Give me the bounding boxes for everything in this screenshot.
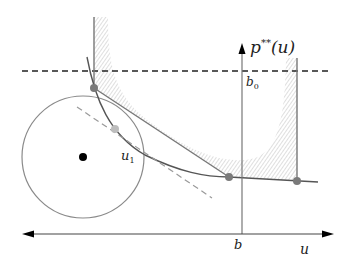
upper-left-contact-point <box>90 84 98 92</box>
u-axis-left-arrow-icon <box>22 231 34 238</box>
circle-center-dot <box>79 153 87 161</box>
lower-contact-point <box>225 173 233 181</box>
b-label: b <box>234 237 242 252</box>
u-label: u <box>300 241 309 257</box>
u1-point <box>111 125 119 133</box>
p-axis-label: p**(u) <box>250 37 295 57</box>
convex-conjugate-diagram: p**(u) b0 u1 b u <box>0 0 364 266</box>
p-axis-arrow-icon <box>239 43 246 54</box>
b0-label: b0 <box>246 75 259 91</box>
right-contact-point <box>293 177 301 185</box>
u-axis-right-arrow-icon <box>322 231 334 238</box>
u1-label: u1 <box>121 148 134 165</box>
